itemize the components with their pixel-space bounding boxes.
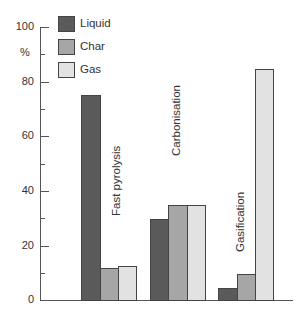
y-tick-label: 80 xyxy=(2,75,34,87)
legend-swatch-gas xyxy=(58,62,75,78)
y-tick-30 xyxy=(40,218,45,219)
y-axis-unit: % xyxy=(20,46,30,58)
y-tick-40 xyxy=(40,191,49,192)
y-tick-label: 40 xyxy=(2,184,34,196)
bar-gasification-char xyxy=(237,274,256,301)
bar-fast-pyrolysis-gas xyxy=(118,266,137,301)
legend-label-char: Char xyxy=(80,40,105,52)
y-tick-100 xyxy=(40,27,49,28)
y-tick-10 xyxy=(40,273,45,274)
bar-carbonisation-liquid xyxy=(150,219,169,301)
y-tick-90 xyxy=(40,54,45,55)
bar-fast-pyrolysis-char xyxy=(100,268,119,301)
category-label-gasification: Gasification xyxy=(234,192,246,252)
bar-carbonisation-char xyxy=(168,205,188,301)
legend-label-gas: Gas xyxy=(80,63,101,75)
y-tick-50 xyxy=(40,164,45,165)
y-tick-label: 60 xyxy=(2,129,34,141)
y-tick-label: 0 xyxy=(2,293,34,305)
y-tick-60 xyxy=(40,136,49,137)
bar-carbonisation-gas xyxy=(187,205,206,301)
legend-swatch-liquid xyxy=(58,16,75,32)
y-tick-20 xyxy=(40,246,49,247)
bar-fast-pyrolysis-liquid xyxy=(81,95,101,301)
y-tick-80 xyxy=(40,82,49,83)
category-label-fast-pyrolysis: Fast pyrolysis xyxy=(110,146,122,216)
category-label-carbonisation: Carbonisation xyxy=(170,85,182,156)
bar-gasification-gas xyxy=(255,69,274,301)
y-tick-label: 20 xyxy=(2,239,34,251)
y-tick-70 xyxy=(40,109,45,110)
bar-gasification-liquid xyxy=(218,288,238,301)
legend-swatch-char xyxy=(58,39,75,55)
y-tick-label: 100 xyxy=(2,20,34,32)
legend-label-liquid: Liquid xyxy=(80,17,111,29)
